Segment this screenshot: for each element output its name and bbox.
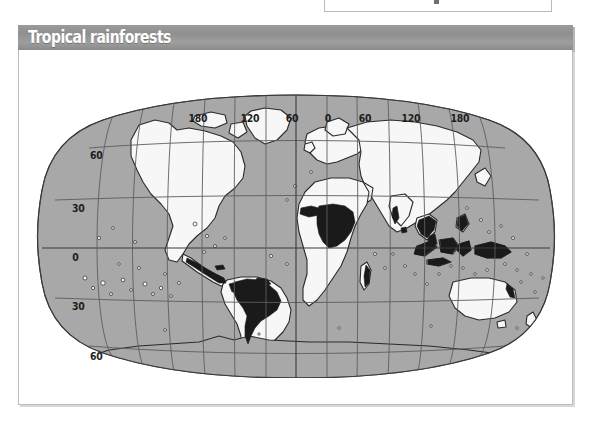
lon-tick-180e: 180 bbox=[447, 112, 473, 125]
landmass-tasmania bbox=[497, 320, 506, 328]
lon-tick-60w: 60 bbox=[282, 112, 302, 125]
lon-tick-180w: 180 bbox=[185, 112, 211, 125]
lat-tick-0: 0 bbox=[51, 251, 78, 264]
rainforest-sri-lanka bbox=[401, 227, 407, 233]
panel-body: 180 120 60 0 60 120 180 60 30 0 30 60 bbox=[18, 50, 573, 405]
page-title: Tropical rainforests bbox=[28, 27, 171, 47]
panel-title-bar: Tropical rainforests bbox=[18, 25, 573, 50]
lon-tick-120e: 120 bbox=[398, 112, 424, 125]
rainforest-caribbean-isles bbox=[215, 265, 225, 270]
world-map-figure: 180 120 60 0 60 120 180 60 30 0 30 60 bbox=[19, 78, 574, 378]
clipped-box-tick bbox=[434, 0, 439, 4]
lon-tick-60e: 60 bbox=[355, 112, 375, 125]
lat-tick-60s: 60 bbox=[75, 350, 102, 363]
lat-tick-30n: 30 bbox=[57, 202, 84, 215]
lat-tick-60n: 60 bbox=[75, 149, 102, 162]
lon-tick-0: 0 bbox=[321, 112, 335, 125]
lon-tick-120w: 120 bbox=[237, 112, 263, 125]
lat-tick-30s: 30 bbox=[57, 300, 84, 313]
